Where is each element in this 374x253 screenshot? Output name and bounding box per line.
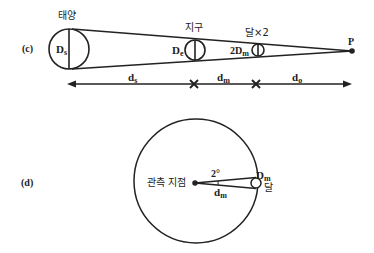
distance-dm-label: dm: [217, 72, 230, 85]
earth-name-label: 지구: [185, 23, 203, 33]
sun-diameter-symbol: D: [56, 43, 64, 55]
angle-upper-line: [195, 178, 256, 184]
orbit-dm-subscript: m: [220, 191, 227, 200]
moon-name-d-label: 달: [264, 183, 273, 193]
diagram-canvas: [0, 0, 374, 253]
dm-subscript: m: [223, 76, 230, 85]
earth-diameter-label: De: [172, 45, 184, 58]
moon-name-label: 달×2: [245, 28, 269, 38]
sun-diameter-subscript: s: [64, 48, 67, 57]
sun-diameter-label: Ds: [56, 44, 67, 57]
moon-diameter-subscript: m: [242, 49, 249, 58]
lower-tangent-line: [72, 51, 352, 69]
distance-do-label: do: [292, 72, 302, 85]
earth-diameter-subscript: e: [180, 49, 184, 58]
observer-label: 관측 지점: [147, 178, 186, 188]
point-p-label: P: [348, 37, 354, 47]
left-arrowhead-icon: [67, 81, 76, 88]
panel-d-label: (d): [21, 178, 33, 188]
moon-diameter-label: 2Dm: [230, 46, 249, 58]
point-p-dot: [350, 49, 354, 53]
distance-ds-label: ds: [128, 72, 137, 85]
dm-diameter-symbol: D: [256, 169, 264, 181]
angle-label: 2°: [211, 169, 220, 179]
panel-c-geometry: [49, 29, 354, 88]
earth-diameter-symbol: D: [172, 44, 180, 56]
sun-name-label: 태양: [58, 11, 76, 21]
right-arrowhead-icon: [343, 81, 352, 88]
panel-c-label: (c): [22, 44, 33, 54]
ds-subscript: s: [134, 76, 137, 85]
do-subscript: o: [298, 76, 302, 85]
upper-tangent-line: [72, 29, 352, 51]
orbit-distance-label: dm: [214, 187, 227, 200]
moon-diameter-symbol: 2D: [230, 45, 242, 56]
